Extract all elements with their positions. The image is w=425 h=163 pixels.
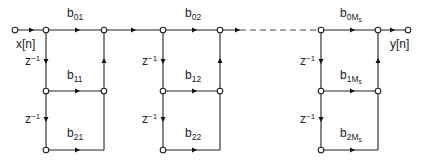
arrow-right-icon [75, 28, 80, 33]
section-2: b02 b12 b22 z−1 z−1 [142, 6, 240, 153]
input-node [12, 27, 18, 33]
arrow-right-icon [350, 148, 355, 153]
arrow-up-icon [102, 58, 107, 63]
input-label: x[n] [16, 37, 35, 51]
delay-label: z−1 [300, 112, 316, 126]
coef-b22: b22 [185, 126, 201, 142]
delay-label: z−1 [142, 54, 158, 68]
arrow-right-icon [192, 28, 197, 33]
output-node [405, 27, 411, 33]
arrow-down-icon [319, 59, 324, 64]
coef-b2ms: b2Ms [340, 126, 363, 143]
delay-label: z−1 [142, 112, 158, 126]
delay-label: z−1 [300, 54, 316, 68]
section-ms: b0Ms b1Ms b2Ms z−1 z−1 [300, 6, 395, 153]
output-label: y[n] [390, 37, 409, 51]
arrow-right-icon [390, 28, 395, 33]
arrow-right-icon [75, 148, 80, 153]
arrow-right-icon [192, 89, 197, 94]
arrow-right-icon [350, 28, 355, 33]
delay-label: z−1 [25, 54, 41, 68]
arrow-up-icon [218, 58, 223, 63]
arrow-right-icon [192, 148, 197, 153]
coef-b11: b11 [67, 68, 83, 84]
delay-label: z−1 [25, 112, 41, 126]
arrow-right-icon [350, 89, 355, 94]
coef-b1ms: b1Ms [340, 68, 363, 85]
arrow-down-icon [44, 117, 49, 122]
section-1: b01 b11 b21 z−1 z−1 [25, 6, 136, 153]
signal-flow-diagram: b01 b11 b21 z−1 z−1 b02 b12 b22 z−1 z−1 [0, 0, 425, 163]
arrow-down-icon [319, 117, 324, 122]
coef-b02: b02 [185, 6, 201, 22]
arrow-down-icon [161, 59, 166, 64]
coef-b12: b12 [185, 68, 201, 84]
arrow-down-icon [44, 59, 49, 64]
arrow-right-icon [235, 28, 240, 33]
coef-b0ms: b0Ms [340, 6, 363, 23]
arrow-right-icon [29, 28, 34, 33]
arrow-up-icon [376, 58, 381, 63]
arrow-right-icon [75, 89, 80, 94]
coef-b01: b01 [67, 6, 83, 22]
coef-b21: b21 [67, 126, 83, 142]
arrow-right-icon [131, 28, 136, 33]
arrow-down-icon [161, 117, 166, 122]
